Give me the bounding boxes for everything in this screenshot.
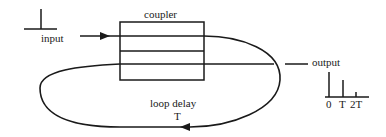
tick-2T: 2T xyxy=(350,98,363,110)
coupler-box xyxy=(120,22,204,80)
loop-delay-symbol: T xyxy=(174,110,181,122)
output-pulse-train xyxy=(325,72,369,97)
delay-line-diagram: input coupler output loop delay T 0 T 2T xyxy=(0,0,386,137)
tick-T: T xyxy=(339,98,346,110)
tick-0: 0 xyxy=(326,98,332,110)
input-label: input xyxy=(41,32,64,44)
input-pulse xyxy=(24,9,57,29)
output-label: output xyxy=(312,56,340,68)
loop-arrow-icon xyxy=(180,123,190,131)
input-arrow xyxy=(80,32,120,40)
loop-delay-label: loop delay xyxy=(150,97,197,109)
coupler-label: coupler xyxy=(144,8,177,20)
